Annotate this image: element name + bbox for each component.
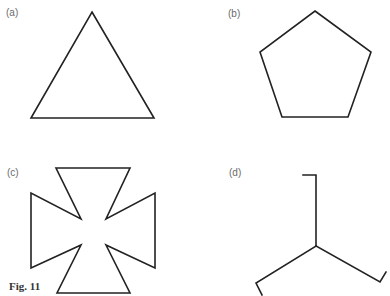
pentagon-shape: [260, 11, 371, 117]
tripod-shape: [256, 175, 386, 295]
triangle-shape: [31, 12, 154, 118]
cross-shape: [31, 168, 155, 293]
figure-canvas: [0, 0, 390, 296]
